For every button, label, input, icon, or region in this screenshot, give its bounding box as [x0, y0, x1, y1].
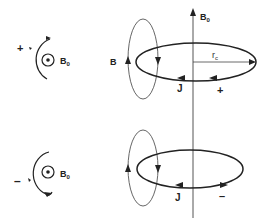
field-out-of-page-icon [42, 54, 54, 66]
radius-label: rc [212, 50, 218, 61]
axis-arrow-icon [190, 8, 196, 16]
loop-field-label: B [110, 57, 117, 67]
field-out-of-page-icon [42, 166, 54, 178]
lower-side-sign: – [14, 174, 21, 188]
upper-side-sign: + [17, 42, 23, 54]
lower-current-loop [137, 150, 243, 188]
upper-field-loop [128, 19, 158, 99]
upper-charge-sign: + [217, 84, 223, 96]
lower-field-loop [128, 130, 158, 206]
b0-axis [190, 8, 196, 218]
upper-current-label: J [177, 83, 183, 94]
lower-charge-sign: – [219, 190, 225, 202]
lower-current-label: J [175, 192, 181, 203]
gyration-diagram: B0 + B0 B rc J + – B0 J – [0, 0, 259, 220]
axis-label: B0 [200, 12, 211, 23]
lower-side-field-label: B0 [60, 169, 71, 180]
upper-side-field-label: B0 [60, 56, 71, 67]
